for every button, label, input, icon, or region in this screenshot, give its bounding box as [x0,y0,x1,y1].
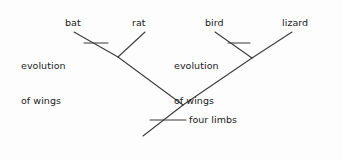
trait-label-line-2: of wings [21,95,66,107]
branch-lizard [252,32,292,58]
trait-label-line-1: evolution [174,60,219,72]
branch-rat [118,32,145,57]
taxon-label-lizard: lizard [282,17,308,29]
trait-label-line-1: evolution [21,60,66,72]
taxon-label-rat: rat [132,17,146,29]
trait-label-evolution-of-wings-left: evolution of wings [21,37,66,129]
cladogram-diagram: bat rat bird lizard evolution of wings e… [0,0,343,160]
branch-bird [215,32,252,58]
taxon-label-bat: bat [65,17,81,29]
branch-bat [74,32,118,57]
trait-label-four-limbs: four limbs [189,114,237,126]
trait-label-line-2: of wings [174,95,219,107]
taxon-label-bird: bird [205,17,224,29]
